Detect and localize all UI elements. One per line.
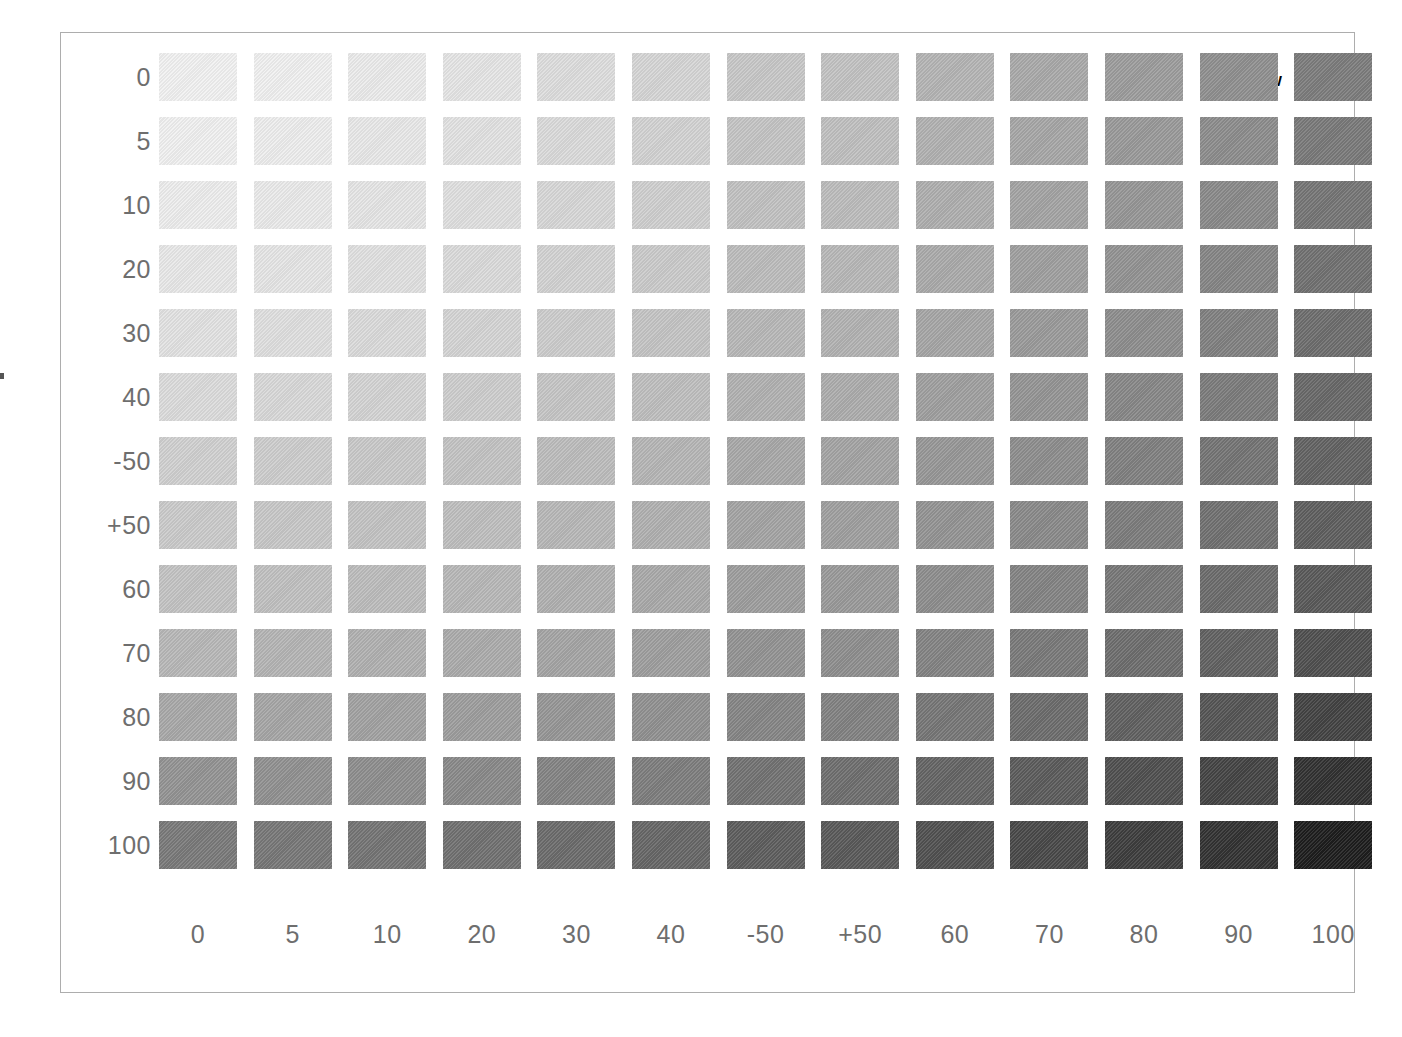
column-label: 0 [159,920,237,949]
color-patch [916,821,994,869]
color-patch [1010,117,1088,165]
color-patch [1200,373,1278,421]
color-patch [821,565,899,613]
color-patch [1010,757,1088,805]
color-patch [821,309,899,357]
color-patch [821,117,899,165]
color-patch [1010,501,1088,549]
color-patch [254,757,332,805]
color-patch [727,437,805,485]
color-patch [821,501,899,549]
color-patch [159,437,237,485]
column-label: 10 [348,920,426,949]
color-patch [254,53,332,101]
color-patch [632,565,710,613]
color-patch [348,437,426,485]
color-patch [254,309,332,357]
color-patch [348,309,426,357]
color-patch [821,245,899,293]
row-label: 90 [81,757,151,805]
color-patch [632,757,710,805]
color-patch [916,437,994,485]
color-patch [1294,757,1372,805]
color-patch [1294,53,1372,101]
color-patch [1200,821,1278,869]
color-patch [821,821,899,869]
color-patch [632,117,710,165]
color-patch [1010,629,1088,677]
color-patch [1010,181,1088,229]
color-patch [1105,629,1183,677]
column-label: 5 [254,920,332,949]
color-patch [727,181,805,229]
color-patch [1200,629,1278,677]
color-patch [1200,565,1278,613]
color-patch [159,373,237,421]
color-patch [443,245,521,293]
color-patch [1105,437,1183,485]
color-patch [159,245,237,293]
color-patch [1200,309,1278,357]
color-patch [537,693,615,741]
color-patch [254,629,332,677]
color-patch [632,245,710,293]
color-patch [443,693,521,741]
color-patch [1010,245,1088,293]
color-patch [1105,373,1183,421]
column-label: 40 [632,920,710,949]
color-patch [1294,565,1372,613]
color-patch [1010,437,1088,485]
color-patch [537,565,615,613]
color-patch [348,53,426,101]
color-patch [443,757,521,805]
color-patch [348,373,426,421]
color-patch [916,693,994,741]
color-patch [254,373,332,421]
row-label: 40 [81,373,151,421]
color-patch [821,53,899,101]
color-patch [916,181,994,229]
color-patch [159,821,237,869]
color-patch [916,629,994,677]
color-patch [1010,309,1088,357]
color-patch [254,245,332,293]
color-patch [1294,245,1372,293]
color-patch [1105,693,1183,741]
color-patch [348,501,426,549]
row-label: 60 [81,565,151,613]
color-patch [727,245,805,293]
color-patch [348,245,426,293]
color-patch [1200,117,1278,165]
color-patch [537,245,615,293]
color-patch [1294,309,1372,357]
left-edge-rule [0,373,4,379]
color-patch [821,757,899,805]
color-patch [1105,821,1183,869]
color-patch [727,53,805,101]
color-patch [537,117,615,165]
row-label: 10 [81,181,151,229]
column-label: 30 [537,920,615,949]
color-patch [632,373,710,421]
color-patch [537,309,615,357]
color-patch [348,693,426,741]
color-patch [159,501,237,549]
color-patch [348,117,426,165]
color-patch [1294,181,1372,229]
color-patch [1200,245,1278,293]
row-label: 100 [81,821,151,869]
color-patch [159,309,237,357]
color-patch [1105,181,1183,229]
row-label: 0 [81,53,151,101]
color-patch [1294,117,1372,165]
column-label: 90 [1200,920,1278,949]
color-patch [254,565,332,613]
color-patch [916,117,994,165]
color-patch [727,309,805,357]
color-patch [443,117,521,165]
color-patch [1010,693,1088,741]
color-patch [1294,821,1372,869]
color-patch [1294,437,1372,485]
color-patch [821,693,899,741]
color-patch [632,629,710,677]
